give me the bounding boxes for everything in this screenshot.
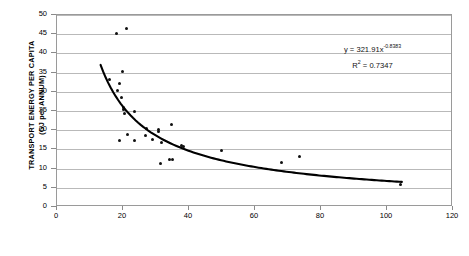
x-tick-label: 80 — [305, 211, 335, 220]
r-squared-value: = 0.7347 — [361, 60, 393, 69]
trendline-equation-annotation: y = 321.91x-0.8383 R2 = 0.7347 — [310, 40, 435, 71]
r-squared-text: R2 = 0.7347 — [310, 56, 435, 72]
y-tick-label: 20 — [21, 125, 47, 133]
y-tick-label: 35 — [21, 68, 47, 76]
equation-body: y = 321.91x — [344, 45, 383, 54]
y-tick-label: 15 — [21, 144, 47, 152]
equation-text: y = 321.91x-0.8383 — [310, 40, 435, 56]
x-tick-label: 100 — [371, 211, 401, 220]
x-tick-label: 20 — [107, 211, 137, 220]
equation-exponent: -0.8383 — [383, 43, 401, 49]
y-tick-label: 25 — [21, 106, 47, 114]
chart-container: TRANSPORT ENERGY PER CAPITA (GJ per ANNU… — [0, 0, 469, 256]
x-tick-label: 60 — [239, 211, 269, 220]
x-tick-label: 40 — [173, 211, 203, 220]
x-tick-label: 0 — [41, 211, 71, 220]
y-tick-label: 40 — [21, 48, 47, 56]
gridline — [57, 207, 451, 208]
y-tick-label: 0 — [21, 202, 47, 210]
y-tick-label: 10 — [21, 164, 47, 172]
y-tick-label: 30 — [21, 87, 47, 95]
y-tick-label: 45 — [21, 29, 47, 37]
y-tick-label: 50 — [21, 10, 47, 18]
x-tick-label: 120 — [437, 211, 467, 220]
y-tick-label: 5 — [21, 183, 47, 191]
